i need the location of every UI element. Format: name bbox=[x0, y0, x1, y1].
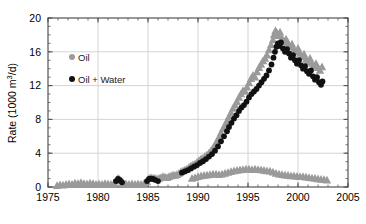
data-point bbox=[296, 57, 302, 63]
y-tick-label: 16 bbox=[29, 46, 41, 58]
y-axis-title-tail: /d) bbox=[6, 63, 18, 75]
x-tick-label: 1985 bbox=[136, 191, 160, 203]
data-point bbox=[264, 73, 270, 79]
data-point bbox=[215, 144, 221, 150]
y-tick-label: 0 bbox=[35, 181, 41, 193]
y-axis-title: Rate (1000 m3/d) bbox=[5, 63, 19, 143]
data-point bbox=[269, 62, 275, 68]
legend-marker-oil-water bbox=[69, 76, 75, 82]
y-tick-label: 20 bbox=[29, 12, 41, 24]
x-tick-label: 2005 bbox=[336, 191, 360, 203]
data-point bbox=[119, 179, 125, 185]
data-point bbox=[302, 63, 308, 69]
data-point bbox=[271, 55, 277, 61]
legend-marker-oil bbox=[69, 54, 75, 60]
y-axis-title-main: Rate (1000 m bbox=[6, 79, 18, 143]
data-point bbox=[272, 49, 278, 55]
data-point bbox=[218, 138, 224, 144]
data-point bbox=[221, 133, 227, 139]
chart-container: 1975198019851990199520002005 048121620 R… bbox=[0, 0, 366, 224]
data-point bbox=[314, 74, 320, 80]
data-point bbox=[290, 52, 296, 58]
y-tick-label: 12 bbox=[29, 79, 41, 91]
data-point bbox=[278, 40, 284, 46]
x-tick-label: 1980 bbox=[86, 191, 110, 203]
legend-label: Oil bbox=[78, 52, 90, 63]
data-point bbox=[320, 78, 326, 84]
x-tick-label: 1990 bbox=[186, 191, 210, 203]
x-tick-label: 2000 bbox=[286, 191, 310, 203]
x-tick-label: 1995 bbox=[236, 191, 260, 203]
rate-vs-year-chart: 1975198019851990199520002005 048121620 R… bbox=[0, 0, 366, 224]
y-tick-label: 4 bbox=[35, 147, 41, 159]
data-point bbox=[155, 178, 161, 184]
y-tick-label: 8 bbox=[35, 113, 41, 125]
svg-text:Rate (1000 m3/d): Rate (1000 m3/d) bbox=[5, 63, 19, 143]
data-point bbox=[266, 67, 272, 73]
data-point bbox=[308, 67, 314, 73]
legend-label: Oil + Water bbox=[78, 74, 125, 85]
